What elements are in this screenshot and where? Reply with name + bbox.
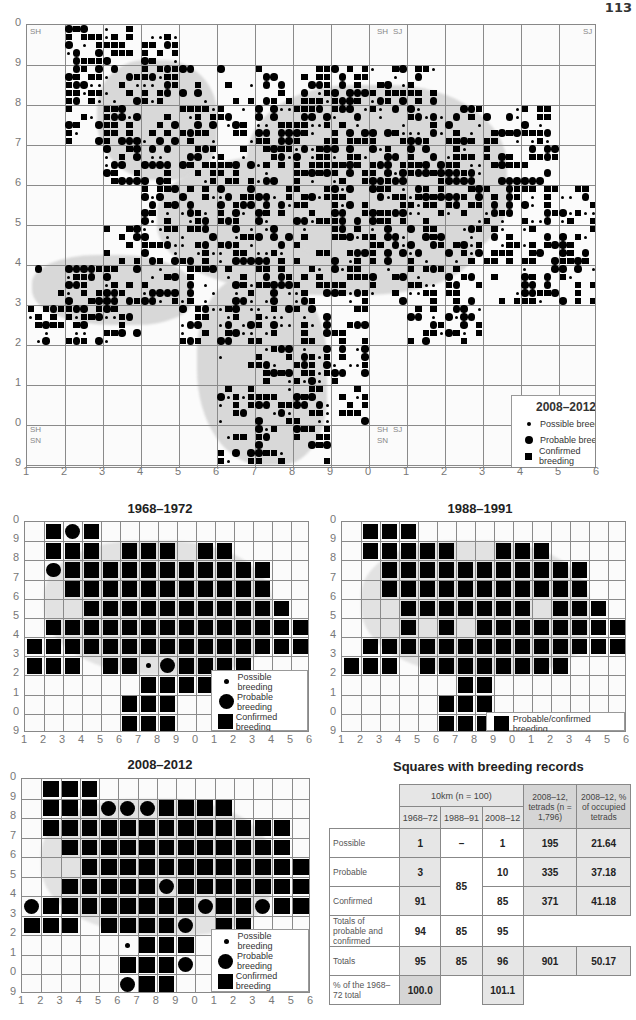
- confirmed-breeding-square: [476, 330, 483, 337]
- possible-breeding-dot: [387, 196, 390, 199]
- confirmed-breeding-square: [210, 170, 217, 177]
- grid-line: [103, 25, 104, 467]
- confirmed-breeding-square: [178, 820, 194, 836]
- confirmed-breeding-square: [324, 162, 331, 169]
- probable-breeding-circle: [278, 281, 286, 289]
- possible-breeding-dot: [409, 196, 412, 199]
- map_1968-x-label: 2: [40, 733, 46, 745]
- possible-breeding-dot: [242, 108, 245, 111]
- confirmed-breeding-square: [590, 218, 596, 225]
- confirmed-breeding-square: [506, 162, 513, 169]
- possible-breeding-dot: [326, 404, 329, 407]
- confirmed-breeding-square: [278, 370, 285, 377]
- probable-breeding-circle: [399, 249, 407, 257]
- probable-breeding-circle: [111, 297, 119, 305]
- confirmed-breeding-square: [476, 202, 483, 209]
- confirmed-breeding-square: [439, 716, 455, 732]
- confirmed-breeding-square: [408, 170, 415, 177]
- possible-breeding-dot: [318, 420, 321, 423]
- probable-breeding-circle-icon: [219, 694, 234, 709]
- probable-breeding-circle: [354, 321, 362, 329]
- map_2008-x-label: 6: [307, 994, 313, 1006]
- confirmed-breeding-square: [122, 562, 138, 578]
- confirmed-breeding-square: [195, 130, 202, 137]
- possible-breeding-dot: [409, 132, 412, 135]
- confirmed-breeding-square: [401, 524, 417, 540]
- probable-breeding-circle: [225, 113, 233, 121]
- confirmed-breeding-square: [111, 34, 118, 41]
- probable-breeding-circle: [491, 201, 499, 209]
- map_1968-x-label: 4: [268, 733, 274, 745]
- confirmed-breeding-square: [294, 106, 301, 113]
- confirmed-breeding-square: [316, 146, 323, 153]
- confirmed-breeding-square: [484, 154, 491, 161]
- map_1968-y-label: 0: [13, 513, 19, 525]
- confirmed-breeding-square: [157, 90, 164, 97]
- probable-breeding-circle: [46, 563, 61, 578]
- probable-breeding-circle: [255, 425, 263, 433]
- confirmed-breeding-square: [408, 114, 415, 121]
- confirmed-breeding-square: [400, 218, 407, 225]
- confirmed-breeding-square: [477, 696, 493, 712]
- confirmed-breeding-square: [468, 186, 475, 193]
- probable-breeding-circle: [506, 113, 514, 121]
- probable-breeding-circle: [111, 289, 119, 297]
- probable-breeding-circle: [323, 441, 331, 449]
- probable-breeding-circle: [551, 265, 559, 273]
- confirmed-breeding-square: [263, 394, 270, 401]
- confirmed-breeding-square: [553, 562, 569, 578]
- confirmed-breeding-square: [256, 66, 263, 73]
- possible-breeding-dot: [151, 84, 154, 87]
- confirmed-breeding-square: [438, 322, 445, 329]
- probable-breeding-circle: [453, 193, 461, 201]
- confirmed-breeding-square: [236, 859, 252, 875]
- possible-breeding-dot: [105, 340, 108, 343]
- confirmed-breeding-square: [225, 266, 232, 273]
- probable-breeding-circle: [468, 273, 476, 281]
- map_1968-y-label: 9: [13, 724, 19, 736]
- confirmed-breeding-square: [477, 677, 493, 693]
- probable-breeding-circle: [103, 273, 111, 281]
- possible-breeding-dot: [440, 332, 443, 335]
- possible-breeding-dot: [371, 228, 374, 231]
- confirmed-breeding-square: [514, 298, 521, 305]
- possible-breeding-dot: [516, 116, 519, 119]
- probable-breeding-circle: [331, 65, 339, 73]
- possible-breeding-dot: [516, 108, 519, 111]
- confirmed-breeding-square: [66, 90, 73, 97]
- confirmed-breeding-square: [301, 426, 308, 433]
- possible-breeding-dot: [463, 332, 466, 335]
- map_1988-y-label: 9: [330, 724, 336, 736]
- probable-breeding-circle: [164, 89, 172, 97]
- possible-breeding-dot: [227, 124, 230, 127]
- confirmed-breeding-square: [544, 194, 551, 201]
- confirmed-breeding-square: [278, 122, 285, 129]
- confirmed-breeding-square: [122, 581, 138, 597]
- probable-breeding-circle: [445, 121, 453, 129]
- probable-breeding-circle: [392, 209, 400, 217]
- confirmed-breeding-square: [210, 178, 217, 185]
- confirmed-breeding-square: [278, 458, 285, 465]
- confirmed-breeding-square: [439, 543, 455, 559]
- confirmed-breeding-square: [408, 154, 415, 161]
- legend-confirmed: Confirmed breeding: [539, 446, 596, 466]
- confirmed-breeding-square: [515, 601, 531, 617]
- confirmed-breeding-square: [88, 90, 95, 97]
- probable-breeding-circle: [536, 249, 544, 257]
- confirmed-breeding-square: [255, 639, 271, 655]
- map_2008-y-label: 1: [10, 946, 16, 958]
- possible-breeding-dot: [447, 156, 450, 159]
- confirmed-breeding-square: [62, 898, 78, 914]
- confirmed-breeding-square: [218, 154, 225, 161]
- confirmed-breeding-square: [172, 226, 179, 233]
- possible-breeding-dot: [478, 164, 481, 167]
- confirmed-breeding-square: [423, 186, 430, 193]
- confirmed-breeding-square: [332, 162, 339, 169]
- map_1968-x-label: 5: [287, 733, 293, 745]
- map_1988-x-label: 3: [566, 733, 572, 745]
- probable-breeding-circle: [544, 273, 552, 281]
- confirmed-breeding-square: [430, 330, 437, 337]
- confirmed-breeding-square: [324, 218, 331, 225]
- confirmed-breeding-square: [301, 194, 308, 201]
- probable-breeding-circle: [544, 129, 552, 137]
